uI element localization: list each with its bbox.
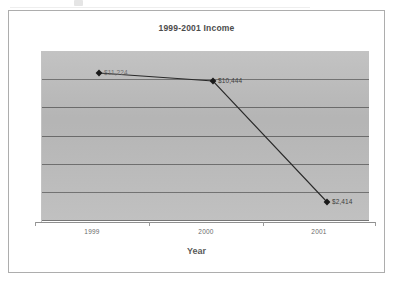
- chart-frame: 1999-2001 Income 1999 2000 2001 Year $11…: [8, 10, 385, 273]
- data-label-1999: $11,224: [104, 69, 128, 76]
- chart-title: 1999-2001 Income: [9, 23, 384, 33]
- x-axis-line: [35, 222, 376, 223]
- x-tick-label-1999: 1999: [62, 228, 122, 235]
- data-label-2000: $10,444: [218, 77, 242, 84]
- x-axis-tick: [149, 222, 150, 226]
- x-tick-label-2001: 2001: [289, 228, 349, 235]
- x-axis-tick: [35, 222, 36, 226]
- scan-artifact: [74, 0, 83, 6]
- data-label-2001: $2,414: [332, 198, 352, 205]
- series-line: [99, 73, 327, 202]
- x-tick-label-2000: 2000: [176, 228, 236, 235]
- scan-artifact-line: [10, 7, 310, 8]
- x-axis-title: Year: [9, 246, 384, 256]
- income-series: [42, 51, 369, 221]
- x-axis-tick: [375, 222, 376, 226]
- data-point-marker: [96, 70, 103, 77]
- x-axis-tick: [263, 222, 264, 226]
